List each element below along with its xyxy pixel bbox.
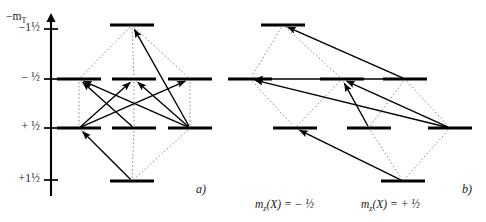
axis-tick-label-1: − ½ [0, 71, 40, 83]
dotted-edge [371, 81, 403, 125]
dotted-edge [81, 27, 130, 77]
transition-arrows [80, 27, 448, 180]
transition-arrow [138, 82, 189, 126]
dotted-edge [371, 131, 402, 179]
dotted-edge [132, 28, 134, 76]
dotted-edge [132, 131, 134, 178]
panel-label-b: b) [462, 182, 472, 197]
energy-level-bars [57, 25, 472, 181]
dotted-edge [297, 81, 340, 126]
dotted-edge [134, 130, 188, 179]
dotted-edge [285, 27, 340, 77]
transition-arrow [84, 81, 189, 127]
dotted-edge [134, 27, 188, 77]
energy-level-diagram: −mT −1½− ½+ ½+1½ a)b) mz(X) = − ½mz(X) =… [0, 0, 486, 222]
diagram-canvas [0, 0, 486, 222]
transition-arrow [80, 82, 130, 126]
transition-arrow [81, 81, 186, 127]
dotted-edge [252, 28, 282, 77]
caption-plus: mz(X) = + ½ [361, 198, 420, 213]
transition-arrow [83, 82, 133, 126]
axis-tick-label-3: +1½ [0, 172, 40, 184]
transition-arrow [347, 81, 449, 127]
axis-tick-label-2: + ½ [0, 120, 40, 132]
caption-minus: mz(X) = − ½ [255, 198, 314, 213]
transition-arrow [299, 130, 401, 180]
axis-tick-label-0: −1½ [0, 21, 40, 33]
transition-arrow [288, 27, 404, 78]
transition-arrow [83, 132, 131, 180]
panel-label-a: a) [196, 182, 206, 197]
axis-group [44, 13, 58, 196]
dotted-edge [405, 130, 448, 179]
axis-arrowhead-icon [46, 13, 55, 22]
transition-arrow [255, 80, 448, 127]
